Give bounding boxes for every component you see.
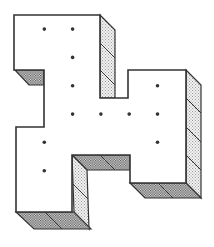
cell-dot bbox=[99, 112, 103, 116]
cell-dot bbox=[156, 141, 160, 145]
cell-dot bbox=[43, 141, 47, 145]
bottom-face-left-notch bbox=[15, 70, 44, 85]
cell-dot bbox=[43, 27, 47, 31]
cell-dot bbox=[71, 84, 75, 88]
cell-dot bbox=[71, 56, 75, 60]
cell-dot bbox=[71, 27, 75, 31]
polyomino-figure bbox=[0, 0, 214, 247]
cell-dot bbox=[43, 169, 47, 173]
cell-dot bbox=[71, 112, 75, 116]
side-face-top-column bbox=[100, 15, 115, 98]
cell-dot bbox=[127, 112, 131, 116]
cell-dot bbox=[156, 112, 160, 116]
cell-dot bbox=[156, 84, 160, 88]
